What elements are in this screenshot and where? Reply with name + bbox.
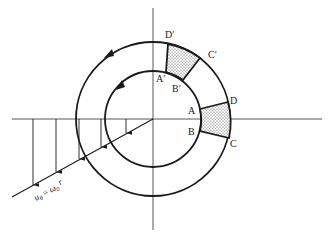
fluid-element-abcd [200, 102, 231, 138]
svg-text:uθ = ω0 r: uθ = ω0 r [31, 176, 66, 203]
rigid-rotation-diagram: A B C D A′ B′ C′ D′ uθ = ω0 r [0, 0, 330, 242]
label-c: C [230, 138, 237, 149]
label-d: D [230, 95, 237, 106]
label-b-prime: B′ [172, 83, 181, 94]
outer-path-direction-arrow-icon [104, 49, 114, 58]
label-b: B [188, 126, 195, 137]
velocity-equation: uθ = ω0 r [31, 176, 66, 203]
label-c-prime: C′ [208, 49, 217, 60]
label-d-prime: D′ [165, 29, 174, 40]
label-a: A [188, 105, 196, 116]
velocity-arrows [33, 119, 126, 185]
label-a-prime: A′ [156, 73, 165, 84]
